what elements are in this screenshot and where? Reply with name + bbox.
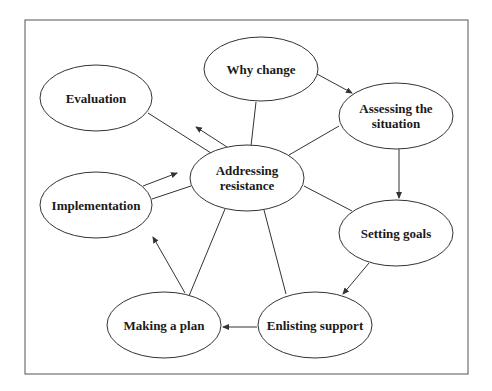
spoke-hub-plan — [189, 209, 225, 296]
change-management-diagram: AddressingresistanceWhy changeAssessing … — [0, 0, 492, 391]
node-eval: Evaluation — [40, 65, 152, 131]
node-hub: Addressingresistance — [190, 145, 304, 211]
node-goals: Setting goals — [339, 200, 453, 266]
arrow-goals-to-enlist — [343, 263, 369, 294]
node-assess: Assessing thesituation — [339, 83, 453, 149]
spoke-hub-why — [251, 102, 256, 146]
node-label: situation — [372, 116, 421, 131]
arrow-plan-to-impl — [153, 237, 185, 293]
spoke-hub-goals — [304, 186, 352, 211]
spoke-hub-assess — [289, 126, 339, 155]
spoke-hub-enlist — [264, 210, 286, 294]
spoke-hub-impl — [152, 186, 191, 199]
node-impl: Implementation — [40, 172, 152, 238]
node-label: Making a plan — [124, 318, 206, 333]
node-enlist: Enlisting support — [258, 292, 372, 358]
node-label: Why change — [227, 62, 296, 77]
diagram-nodes: AddressingresistanceWhy changeAssessing … — [40, 37, 453, 358]
arrow-impl-to-hub — [143, 173, 177, 186]
node-label: Addressing — [216, 163, 279, 178]
node-label: resistance — [220, 178, 275, 193]
node-label: Evaluation — [66, 91, 127, 106]
node-label: Implementation — [52, 198, 142, 213]
node-why: Why change — [204, 37, 318, 101]
node-label: Assessing the — [359, 101, 433, 116]
spoke-hub-eval — [148, 113, 211, 153]
node-label: Enlisting support — [267, 318, 364, 333]
arrow-hub-to-eval — [196, 127, 227, 147]
node-plan: Making a plan — [107, 292, 221, 358]
node-label: Setting goals — [361, 226, 431, 241]
arrow-why-to-assess — [317, 74, 352, 93]
